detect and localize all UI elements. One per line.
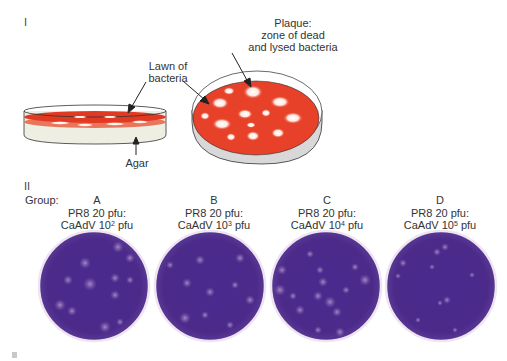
group-a-label: A PR8 20 pfu: CaAdV 102 pfu — [61, 194, 133, 232]
plate-a — [39, 231, 149, 341]
group-b-letter: B — [178, 194, 250, 207]
petri-dish-illustration — [0, 0, 507, 180]
group-c-label: C PR8 20 pfu: CaAdV 104 pfu — [291, 194, 363, 232]
group-c-letter: C — [291, 194, 363, 207]
group-a-letter: A — [61, 194, 133, 207]
group-d-label: D PR8 20 pfu: CaAdV 105 pfu — [404, 194, 476, 232]
group-b-pr8: PR8 20 pfu: — [178, 207, 250, 220]
plate-c — [271, 231, 381, 341]
group-d-pr8: PR8 20 pfu: — [404, 207, 476, 220]
panel-ii-label: II — [24, 180, 30, 192]
plate-d — [386, 231, 496, 341]
group-header: Group: — [25, 194, 59, 206]
group-b-label: B PR8 20 pfu: CaAdV 103 pfu — [178, 194, 250, 232]
group-a-pr8: PR8 20 pfu: — [61, 207, 133, 220]
plaque-assay-plates — [0, 230, 507, 350]
group-c-pr8: PR8 20 pfu: — [291, 207, 363, 220]
plate-b — [155, 231, 265, 341]
top-view-dish — [192, 71, 322, 164]
group-d-letter: D — [404, 194, 476, 207]
side-view-dish — [24, 105, 166, 144]
corner-marker — [12, 352, 17, 358]
